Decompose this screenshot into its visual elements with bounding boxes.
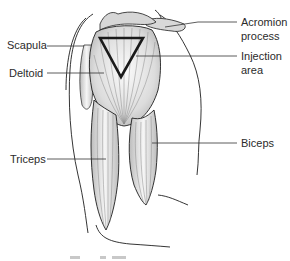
label-acromion-process: Acromion process: [241, 15, 287, 43]
biceps-muscle: [129, 110, 157, 205]
label-biceps: Biceps: [241, 136, 274, 150]
label-scapula: Scapula: [7, 38, 47, 52]
caption-remnant: [70, 256, 126, 259]
triceps-muscle: [91, 100, 119, 230]
label-injection-area: Injection area: [241, 49, 282, 77]
label-triceps: Triceps: [10, 152, 46, 166]
label-deltoid: Deltoid: [9, 66, 43, 80]
